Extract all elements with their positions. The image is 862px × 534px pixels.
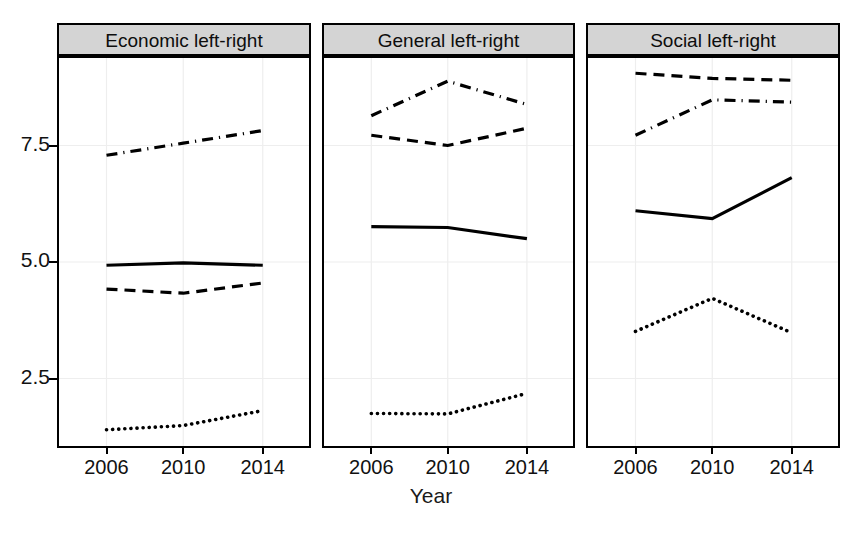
panel-series-svg	[59, 58, 309, 446]
panel-plot-area	[586, 56, 840, 448]
series-line-dashdot	[107, 131, 263, 156]
x-axis-tick-2006: 2006	[67, 456, 147, 479]
series-line-dashed	[107, 283, 263, 293]
panel-plot-area	[57, 56, 311, 448]
x-axis-tick-mark	[447, 446, 449, 454]
panel-strip-header: General left-right	[322, 23, 575, 56]
series-line-dashed	[371, 128, 527, 145]
y-axis-tick-2.5: 2.5	[2, 365, 50, 389]
y-axis-tick-mark	[49, 378, 57, 380]
x-axis-tick-2014: 2014	[487, 456, 567, 479]
panel-3: Social left-right	[586, 23, 840, 448]
y-axis-tick-mark	[49, 261, 57, 263]
x-axis-tick-mark	[370, 446, 372, 454]
panel-series-svg	[588, 58, 838, 446]
x-axis-tick-2006: 2006	[331, 456, 411, 479]
series-line-dotted	[107, 411, 263, 430]
panel-strip-header: Economic left-right	[57, 23, 311, 56]
y-axis-tick-7.5: 7.5	[2, 132, 50, 156]
series-line-solid	[371, 227, 527, 239]
panel-plot-area	[322, 56, 575, 448]
x-axis-tick-mark	[791, 446, 793, 454]
panel-title: Social left-right	[588, 30, 838, 52]
x-axis-title: Year	[410, 484, 452, 508]
x-axis-tick-2014: 2014	[223, 456, 303, 479]
series-line-dotted	[371, 393, 527, 414]
x-axis-tick-mark	[182, 446, 184, 454]
x-axis-tick-2006: 2006	[596, 456, 676, 479]
x-axis-tick-2010: 2010	[672, 456, 752, 479]
x-axis-tick-mark	[526, 446, 528, 454]
series-line-dotted	[636, 298, 792, 332]
x-axis-title-wrap: Year	[0, 484, 862, 508]
chart-figure: 2.55.07.5 Economic left-rightGeneral lef…	[0, 0, 862, 534]
x-axis-tick-2010: 2010	[143, 456, 223, 479]
panel-series-svg	[324, 58, 573, 446]
panel-2: General left-right	[322, 23, 575, 448]
y-axis-tick-5.0: 5.0	[2, 248, 50, 272]
x-axis-tick-mark	[711, 446, 713, 454]
series-line-dashed	[636, 73, 792, 80]
panel-strip-header: Social left-right	[586, 23, 840, 56]
series-line-solid	[107, 263, 263, 265]
panel-1: Economic left-right	[57, 23, 311, 448]
series-line-dashdot	[636, 100, 792, 135]
series-line-dashdot	[371, 81, 527, 115]
y-axis-tick-mark	[49, 145, 57, 147]
x-axis-tick-mark	[106, 446, 108, 454]
x-axis-tick-mark	[635, 446, 637, 454]
x-axis-tick-2014: 2014	[752, 456, 832, 479]
x-axis-tick-mark	[262, 446, 264, 454]
panel-title: Economic left-right	[59, 30, 309, 52]
panel-title: General left-right	[324, 30, 573, 52]
series-line-solid	[636, 178, 792, 219]
x-axis-tick-2010: 2010	[408, 456, 488, 479]
